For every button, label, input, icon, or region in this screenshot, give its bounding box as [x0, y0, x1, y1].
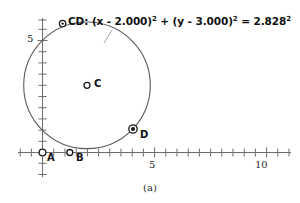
circle-equation-label[interactable]: CD: (x - 2.000)2 + (y - 3.000)2 = 2.8282	[68, 15, 291, 27]
x-tick-label-5: 5	[149, 160, 155, 170]
figure-caption: (a)	[0, 182, 300, 193]
point-a-marker[interactable]	[39, 149, 46, 156]
x-tick-label-10: 10	[255, 160, 268, 170]
point-a-label[interactable]: A	[47, 153, 55, 163]
figure-canvas: CD: (x - 2.000)2 + (y - 3.000)2 = 2.8282…	[0, 0, 300, 203]
label-leader-line	[104, 30, 112, 43]
equation-exponent-3: 2	[286, 15, 291, 23]
point-c-marker[interactable]	[84, 82, 90, 88]
circle-handle-point[interactable]	[59, 20, 65, 26]
point-b-label[interactable]: B	[76, 153, 84, 163]
equation-middle: + (y - 3.000)	[157, 15, 233, 27]
point-d-label[interactable]: D	[140, 130, 148, 140]
plot-svg	[0, 0, 300, 203]
equation-equals: = 2.828	[238, 15, 287, 27]
point-b-marker[interactable]	[67, 150, 73, 156]
y-tick-label-5: 5	[27, 34, 33, 44]
point-d-marker[interactable]	[129, 125, 137, 133]
equation-prefix: CD: (x - 2.000)	[68, 15, 152, 27]
point-c-label[interactable]: C	[94, 79, 101, 89]
